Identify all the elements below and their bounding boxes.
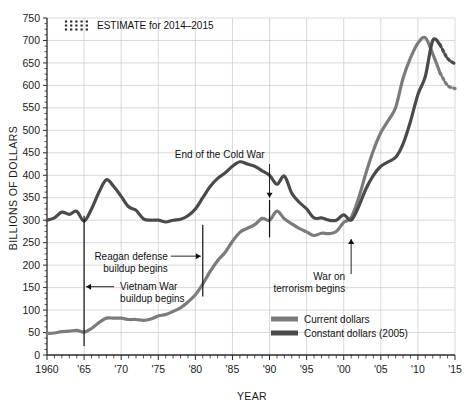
y-tick-label: 350 — [22, 191, 40, 203]
chart-svg: 0501001502002503003504004505005506006507… — [0, 0, 464, 409]
y-tick-label: 150 — [22, 281, 40, 293]
y-tick-label: 250 — [22, 236, 40, 248]
y-axis: 0501001502002503003504004505005506006507… — [22, 12, 47, 361]
y-tick-label: 400 — [22, 169, 40, 181]
estimate-key: ESTIMATE for 2014–2015 — [66, 20, 214, 31]
x-tick-label: '05 — [374, 363, 388, 375]
annotation-label: terrorism begins — [273, 283, 345, 294]
x-tick-label: '00 — [337, 363, 351, 375]
y-tick-label: 550 — [22, 101, 40, 113]
y-tick-label: 600 — [22, 79, 40, 91]
x-tick-label: '85 — [226, 363, 240, 375]
y-tick-label: 650 — [22, 57, 40, 69]
y-tick-label: 750 — [22, 12, 40, 24]
x-axis-title: YEAR — [237, 390, 267, 402]
annotation-label: Vietnam War — [120, 281, 178, 292]
y-tick-label: 300 — [22, 214, 40, 226]
series-estimate-line — [440, 73, 455, 88]
x-tick-label: '65 — [77, 363, 91, 375]
annotation-end-cold-war: End of the Cold War — [175, 149, 273, 237]
defense-spending-chart: 0501001502002503003504004505005506006507… — [0, 0, 464, 409]
gridlines — [47, 18, 455, 355]
x-tick-label: '10 — [411, 363, 425, 375]
y-tick-label: 500 — [22, 124, 40, 136]
y-tick-label: 50 — [28, 326, 40, 338]
annotation-arrowhead — [86, 284, 91, 290]
legend: Current dollarsConstant dollars (2005) — [271, 314, 408, 339]
x-tick-label: 1960 — [35, 363, 59, 375]
x-tick-label: '70 — [114, 363, 128, 375]
annotation-arrowhead — [196, 253, 201, 259]
series-estimate-line — [440, 45, 455, 64]
y-tick-label: 0 — [34, 349, 40, 361]
estimate-key-label: ESTIMATE for 2014–2015 — [97, 20, 214, 31]
x-tick-label: '90 — [263, 363, 277, 375]
annotation-arrowhead — [348, 239, 354, 244]
x-tick-label: '75 — [151, 363, 165, 375]
x-tick-label: '15 — [448, 363, 462, 375]
annotation-label: End of the Cold War — [175, 149, 265, 160]
annotation-label: buildup begins — [120, 293, 185, 304]
y-axis-title: BILLIONS OF DOLLARS — [7, 126, 19, 250]
annotation-label: Reagan defense — [94, 251, 168, 262]
y-tick-label: 100 — [22, 304, 40, 316]
series-layer — [47, 37, 455, 333]
y-tick-label: 700 — [22, 34, 40, 46]
x-tick-label: '80 — [189, 363, 203, 375]
y-tick-label: 200 — [22, 259, 40, 271]
annotation-vietnam-war: Vietnam Warbuildup begins — [84, 216, 185, 346]
legend-label: Constant dollars (2005) — [304, 328, 408, 339]
annotation-war-on-terrorism: War onterrorism begins — [273, 239, 354, 293]
annotation-label: War on — [313, 271, 345, 282]
x-tick-label: '95 — [300, 363, 314, 375]
annotation-label: buildup begins — [103, 263, 168, 274]
estimate-key-swatch — [66, 21, 87, 31]
legend-label: Current dollars — [304, 314, 370, 325]
x-axis: 1960'65'70'75'80'85'90'95'00'05'10'15 — [35, 355, 462, 375]
annotation-arrowhead — [267, 193, 273, 198]
series-line — [47, 37, 440, 333]
y-tick-label: 450 — [22, 146, 40, 158]
